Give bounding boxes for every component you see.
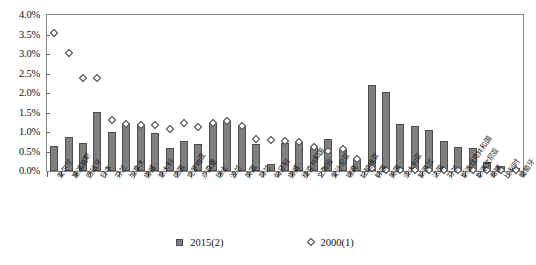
x-axis-labels: 爱尔兰塞浦路斯西班牙日本芬兰加拿大挪威意大利德国克罗地亚卢森堡瑞士波兰英国荷兰匈… <box>47 176 523 228</box>
chart-column <box>436 15 450 171</box>
chart-column <box>90 15 104 171</box>
marker-2000 <box>50 29 58 37</box>
legend-label: 2000(1) <box>321 237 354 248</box>
chart-column <box>263 15 277 171</box>
bar-2015 <box>223 121 231 171</box>
chart-column <box>292 15 306 171</box>
bar-2015 <box>122 123 130 171</box>
marker-2000 <box>180 119 188 127</box>
marker-2000 <box>64 49 72 57</box>
chart-column <box>350 15 364 171</box>
chart-column <box>191 15 205 171</box>
chart-column <box>119 15 133 171</box>
y-tick-mark <box>46 93 50 94</box>
y-tick-label: 3.0% <box>19 49 40 59</box>
chart-column <box>379 15 393 171</box>
y-tick-label: 1.5% <box>19 108 40 118</box>
marker-2000 <box>108 116 116 124</box>
chart-column <box>235 15 249 171</box>
chart-column <box>134 15 148 171</box>
y-tick-label: 0.5% <box>19 147 40 157</box>
chart-column <box>105 15 119 171</box>
y-tick-mark <box>46 113 50 114</box>
chart-column <box>162 15 176 171</box>
y-tick-mark <box>46 132 50 133</box>
chart-column <box>61 15 75 171</box>
chart-column <box>148 15 162 171</box>
chart-column <box>220 15 234 171</box>
legend-item: 2015(2) <box>176 237 223 248</box>
chart-column <box>393 15 407 171</box>
chart-column <box>451 15 465 171</box>
chart-column <box>364 15 378 171</box>
y-tick-label: 4.0% <box>19 10 40 20</box>
chart-column <box>422 15 436 171</box>
marker-2000 <box>93 74 101 82</box>
y-tick-mark <box>46 54 50 55</box>
chart-column <box>177 15 191 171</box>
y-tick-label: 0.0% <box>19 166 40 176</box>
y-tick-mark <box>46 152 50 153</box>
y-tick-label: 1.0% <box>19 127 40 137</box>
chart-column <box>76 15 90 171</box>
y-tick-mark <box>46 74 50 75</box>
marker-2000 <box>79 74 87 82</box>
y-tick-label: 2.0% <box>19 88 40 98</box>
marker-2000 <box>194 123 202 131</box>
chart-column <box>408 15 422 171</box>
plot-area <box>47 15 523 171</box>
marker-2000 <box>165 124 173 132</box>
chart-legend: 2015(2)2000(1) <box>0 232 530 252</box>
marker-2000 <box>151 121 159 129</box>
legend-label: 2015(2) <box>190 237 223 248</box>
y-axis: 0.0%0.5%1.0%1.5%2.0%2.5%3.0%3.5%4.0% <box>0 14 44 172</box>
marker-2000 <box>266 136 274 144</box>
chart-column <box>335 15 349 171</box>
bar-2015 <box>382 92 390 171</box>
legend-bar-icon <box>176 239 183 246</box>
bar-2015 <box>50 146 58 171</box>
legend-diamond-icon <box>306 238 314 246</box>
chart-column <box>509 15 523 171</box>
chart-column <box>278 15 292 171</box>
y-tick-mark <box>46 35 50 36</box>
marker-2000 <box>252 135 260 143</box>
y-tick-label: 3.5% <box>19 30 40 40</box>
chart-column <box>206 15 220 171</box>
y-tick-label: 2.5% <box>19 69 40 79</box>
legend-item: 2000(1) <box>308 237 354 248</box>
chart-column <box>249 15 263 171</box>
